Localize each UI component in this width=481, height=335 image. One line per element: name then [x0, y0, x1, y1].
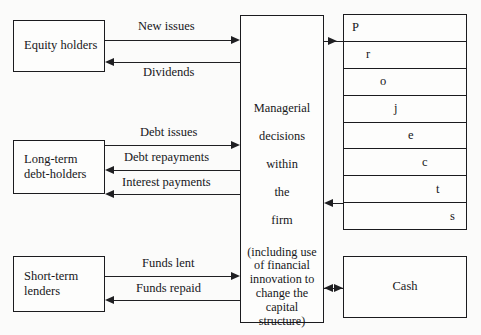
projects-row[interactable]: c	[344, 149, 466, 176]
investment-in-projects-arrowhead	[328, 37, 337, 45]
long-term-debt-holders-label: Long-term debt-holders	[24, 152, 86, 183]
projects-row[interactable]: P	[344, 15, 466, 42]
returns-from-projects-arrowhead	[324, 199, 333, 207]
projects-letter: c	[422, 155, 428, 170]
long-term-debt-holders-box[interactable]: Long-term debt-holders	[13, 140, 105, 194]
projects-row[interactable]: r	[344, 42, 466, 69]
projects-row[interactable]: o	[344, 69, 466, 96]
cash-flow-arrowhead-right	[334, 284, 343, 292]
funds-flow-diagram: Equity holders Long-term debt-holders Sh…	[0, 0, 481, 335]
new-issues-arrowhead	[231, 36, 240, 44]
center-line-5: firm	[271, 214, 292, 226]
debt-issues-label: Debt issues	[140, 126, 197, 139]
funds-lent-arrowhead	[231, 272, 240, 280]
projects-letter: s	[450, 209, 455, 224]
projects-letter: e	[408, 128, 414, 143]
funds-repaid-line	[114, 300, 240, 301]
center-line-3: within	[266, 158, 298, 170]
debt-issues-arrowhead	[231, 141, 240, 149]
funds-lent-label: Funds lent	[142, 257, 194, 270]
debt-repayments-line	[114, 170, 240, 171]
cash-label: Cash	[393, 279, 418, 294]
funds-repaid-label: Funds repaid	[136, 282, 201, 295]
interest-payments-label: Interest payments	[122, 176, 211, 189]
debt-repayments-label: Debt repayments	[124, 151, 209, 164]
interest-payments-arrowhead	[105, 190, 114, 198]
center-line-4: the	[274, 186, 289, 198]
short-term-lenders-label: Short-term lenders	[24, 269, 78, 300]
managerial-decisions-box[interactable]: Managerial decisions within the firm (in…	[240, 15, 324, 323]
cash-box[interactable]: Cash	[343, 256, 467, 318]
projects-row[interactable]: s	[344, 203, 466, 229]
debt-repayments-arrowhead	[105, 166, 114, 174]
projects-row[interactable]: t	[344, 176, 466, 203]
projects-stack[interactable]: P r o j e c t s	[343, 14, 467, 230]
equity-holders-box[interactable]: Equity holders	[13, 20, 105, 72]
projects-letter: t	[436, 182, 439, 197]
projects-letter: j	[394, 101, 397, 116]
center-line-2: decisions	[259, 130, 305, 142]
short-term-lenders-box[interactable]: Short-term lenders	[13, 256, 105, 312]
center-line-1: Managerial	[254, 102, 310, 114]
center-parenthetical: (including use of financial innovation t…	[247, 246, 316, 329]
dividends-label: Dividends	[143, 66, 194, 79]
cash-flow-arrowhead-left	[324, 284, 333, 292]
projects-letter: P	[352, 20, 359, 35]
debt-issues-line	[105, 145, 232, 146]
equity-holders-label: Equity holders	[24, 38, 97, 53]
projects-row[interactable]: j	[344, 96, 466, 123]
new-issues-line	[105, 40, 232, 41]
funds-repaid-arrowhead	[105, 296, 114, 304]
dividends-line	[114, 62, 240, 63]
projects-letter: r	[366, 47, 370, 62]
projects-row[interactable]: e	[344, 123, 466, 150]
interest-payments-line	[114, 194, 240, 195]
new-issues-label: New issues	[138, 20, 195, 33]
dividends-arrowhead	[105, 58, 114, 66]
funds-lent-line	[105, 276, 232, 277]
projects-letter: o	[380, 74, 386, 89]
